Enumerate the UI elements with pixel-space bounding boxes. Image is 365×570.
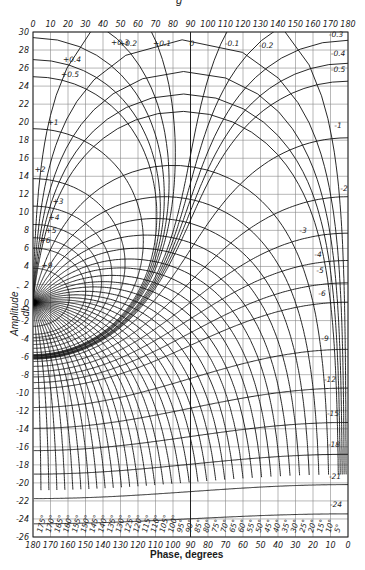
- svg-text:+0.4: +0.4: [63, 55, 81, 64]
- svg-text:20: 20: [308, 541, 318, 550]
- svg-text:-0.4: -0.4: [331, 49, 346, 58]
- svg-text:16: 16: [19, 154, 29, 163]
- svg-text:40: 40: [98, 20, 108, 29]
- svg-text:-12: -12: [16, 407, 29, 416]
- svg-text:60: 60: [133, 20, 143, 29]
- svg-text:-5: -5: [316, 266, 324, 275]
- svg-text:50: 50: [255, 541, 265, 550]
- svg-text:+9: +9: [41, 261, 52, 270]
- svg-text:+0.3: +0.3: [111, 38, 129, 47]
- svg-text:-0.2: -0.2: [259, 41, 274, 50]
- svg-text:-21: -21: [329, 472, 341, 481]
- svg-text:5°: 5°: [333, 523, 344, 534]
- svg-text:50: 50: [115, 20, 125, 29]
- svg-text:30: 30: [19, 28, 29, 37]
- svg-text:70: 70: [150, 20, 160, 29]
- svg-text:-0.1: -0.1: [225, 39, 240, 48]
- svg-text:-20: -20: [16, 479, 29, 488]
- svg-text:10: 10: [19, 208, 29, 217]
- svg-text:-4: -4: [314, 250, 322, 259]
- svg-text:-12: -12: [324, 375, 336, 384]
- svg-text:-0.3: -0.3: [329, 30, 344, 39]
- svg-text:10: 10: [325, 541, 335, 550]
- svg-text:-0.5: -0.5: [331, 65, 346, 74]
- svg-text:+3: +3: [52, 197, 63, 206]
- svg-text:-24: -24: [330, 500, 342, 509]
- svg-text:-18: -18: [328, 440, 340, 449]
- svg-text:-22: -22: [16, 497, 29, 506]
- svg-text:20: 20: [63, 20, 73, 29]
- svg-text:-26: -26: [16, 533, 29, 542]
- svg-text:-16: -16: [16, 443, 29, 452]
- svg-text:10: 10: [45, 20, 55, 29]
- svg-text:-1: -1: [334, 121, 341, 130]
- svg-text:-6: -6: [21, 353, 29, 362]
- svg-text:-3: -3: [299, 226, 307, 235]
- svg-text:30: 30: [290, 541, 300, 550]
- svg-text:-10: -10: [16, 389, 29, 398]
- svg-text:150: 150: [288, 20, 303, 29]
- svg-text:0: 0: [30, 20, 35, 29]
- svg-text:120: 120: [130, 541, 145, 550]
- svg-text:-2: -2: [340, 184, 348, 193]
- svg-text:+0.1: +0.1: [153, 39, 171, 48]
- svg-text:8: 8: [24, 226, 29, 235]
- svg-text:+5: +5: [45, 226, 56, 235]
- svg-text:12: 12: [19, 190, 29, 199]
- svg-text:26: 26: [19, 64, 29, 73]
- svg-text:+0.5: +0.5: [61, 70, 79, 79]
- svg-text:150: 150: [78, 541, 93, 550]
- svg-text:170: 170: [323, 20, 338, 29]
- svg-text:-15: -15: [327, 409, 339, 418]
- svg-text:24: 24: [19, 82, 29, 91]
- svg-text:160: 160: [305, 20, 320, 29]
- svg-text:180: 180: [340, 20, 355, 29]
- svg-text:100: 100: [200, 20, 215, 29]
- axis-ticks: 0180101702016030150401405013060120701108…: [16, 20, 356, 550]
- svg-text:0: 0: [345, 541, 350, 550]
- svg-text:110: 110: [218, 20, 233, 29]
- svg-text:40: 40: [273, 541, 283, 550]
- svg-text:130: 130: [253, 20, 268, 29]
- svg-text:-18: -18: [16, 461, 29, 470]
- svg-text:180: 180: [25, 541, 40, 550]
- svg-text:80: 80: [168, 20, 178, 29]
- svg-text:+1: +1: [47, 118, 58, 127]
- svg-text:4: 4: [24, 262, 29, 271]
- svg-text:-14: -14: [16, 425, 29, 434]
- svg-text:22: 22: [19, 100, 29, 109]
- svg-text:20: 20: [19, 118, 29, 127]
- svg-text:14: 14: [19, 172, 29, 181]
- svg-text:-8: -8: [21, 371, 29, 380]
- contour-labels: +0.1+0.2+0.3+0.4+0.5+1+2+3+4+5+6+90-0.1-…: [34, 30, 347, 534]
- svg-text:6: 6: [24, 244, 29, 253]
- svg-text:28: 28: [19, 46, 29, 55]
- nichols-chart: 0180101702016030150401405013060120701108…: [0, 0, 365, 570]
- svg-text:30: 30: [80, 20, 90, 29]
- svg-text:160: 160: [60, 541, 75, 550]
- svg-text:60: 60: [238, 541, 248, 550]
- y-axis-label: Amplitude , db: [9, 281, 31, 341]
- svg-text:-6: -6: [318, 289, 326, 298]
- svg-text:90: 90: [185, 20, 195, 29]
- x-axis-label: Phase, degrees: [150, 549, 223, 560]
- svg-text:+6: +6: [39, 236, 50, 245]
- svg-text:18: 18: [19, 136, 29, 145]
- svg-text:140: 140: [95, 541, 110, 550]
- svg-text:-9: -9: [321, 334, 329, 343]
- svg-text:140: 140: [270, 20, 285, 29]
- svg-text:170: 170: [43, 541, 58, 550]
- svg-text:-24: -24: [16, 515, 29, 524]
- svg-text:+2: +2: [34, 165, 45, 174]
- contour-curves: [31, 0, 348, 537]
- svg-text:130: 130: [113, 541, 128, 550]
- svg-text:120: 120: [235, 20, 250, 29]
- svg-text:0: 0: [190, 39, 195, 48]
- svg-text:+4: +4: [48, 213, 59, 222]
